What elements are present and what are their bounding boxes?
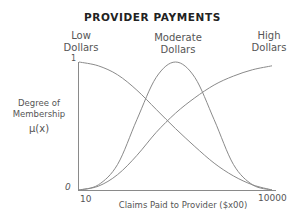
plot-area bbox=[0, 0, 305, 222]
curve-low-dollars bbox=[79, 62, 272, 190]
curve-high-dollars bbox=[79, 66, 272, 190]
curve-moderate-dollars bbox=[79, 62, 272, 190]
